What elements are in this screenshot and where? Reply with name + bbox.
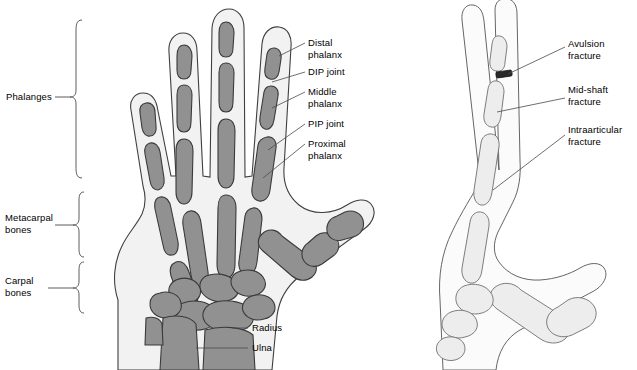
label-ulna: Ulna [252,342,272,354]
label-phalanges: Phalanges [6,91,52,103]
label-proximal-phalanx: Proximal phalanx [308,138,346,161]
label-carpal-bones: Carpal bones [5,275,34,298]
anatomy-figure: .st{fill:#f2f2f2;stroke:#3f3f3f;stroke-w… [0,0,637,370]
label-metacarpal-bones: Metacarpal bones [5,212,53,235]
label-dip-joint: DIP joint [308,66,345,78]
left-panel-brackets [48,20,84,313]
label-intraarticular-fracture: Intraarticular fracture [568,124,622,147]
label-pip-joint: PIP joint [308,118,344,130]
label-distal-phalanx: Distal phalanx [308,37,342,60]
label-avulsion-fracture: Avulsion fracture [568,38,605,61]
label-radius: Radius [252,322,282,334]
label-middle-phalanx: Middle phalanx [308,86,342,109]
label-mid-shaft-fracture: Mid-shaft fracture [568,84,608,107]
